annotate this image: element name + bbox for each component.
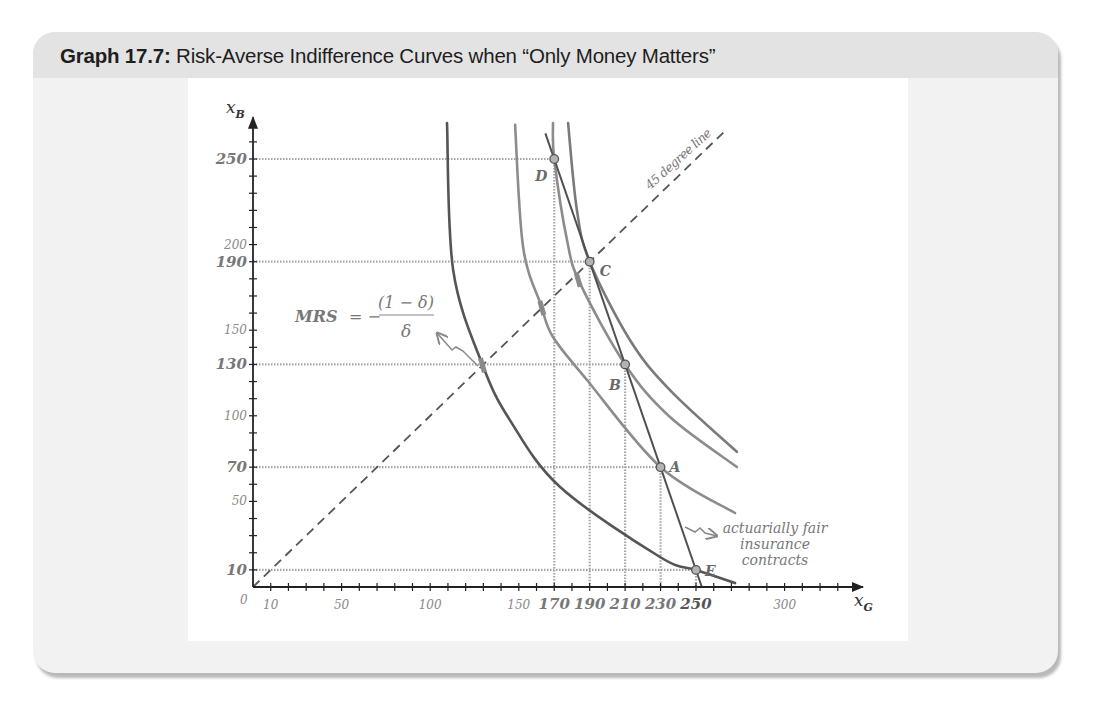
- certainty-45-degree-line: [253, 130, 726, 587]
- point-B: [621, 360, 630, 369]
- x-tick-label-190: 190: [574, 595, 606, 613]
- y-tick-label-190: 190: [216, 253, 248, 271]
- mrs-equals: = −: [349, 307, 381, 326]
- x-tick-label-50: 50: [334, 598, 350, 612]
- point-label-D: D: [534, 168, 548, 184]
- fair-label-line-2: insurance: [740, 536, 810, 552]
- point-label-E: E: [704, 563, 716, 579]
- y-tick-label-100: 100: [224, 409, 247, 423]
- point-A: [656, 463, 665, 472]
- point-label-B: B: [608, 377, 621, 393]
- x-tick-label-170: 170: [539, 595, 571, 613]
- diagonal-line-label: 45 degree line: [641, 125, 714, 193]
- y-tick-label-50: 50: [232, 494, 248, 508]
- y-axis-label: xB: [226, 97, 245, 121]
- mrs-numerator: (1 − δ): [378, 293, 434, 312]
- point-E: [692, 566, 701, 575]
- point-label-C: C: [600, 263, 611, 279]
- x-tick-label-150: 150: [507, 598, 530, 612]
- certainty-line-layer: [253, 130, 726, 587]
- indifference-curve-3: [553, 123, 737, 467]
- x-tick-label-10: 10: [263, 598, 279, 612]
- x-tick-label-100: 100: [419, 598, 442, 612]
- x-tick-label-230: 230: [644, 595, 677, 613]
- y-tick-label-130: 130: [216, 355, 248, 373]
- mrs-denominator: δ: [401, 321, 411, 341]
- y-tick-label-150: 150: [224, 323, 247, 337]
- x-tick-label-250: 250: [679, 595, 712, 613]
- x-tick-label-300: 300: [773, 598, 796, 612]
- slope-marks-layer: [480, 273, 580, 373]
- mrs-annotation: MRS = − (1 − δ) δ: [294, 293, 478, 366]
- mrs-label: MRS: [294, 307, 338, 326]
- point-C: [585, 257, 594, 266]
- fair-label-line-3: contracts: [742, 552, 809, 568]
- slope-mark-3: [576, 273, 580, 287]
- indifference-curves-layer: [447, 123, 737, 583]
- y-tick-label-70: 70: [226, 458, 247, 476]
- slope-mark-1: [480, 358, 484, 372]
- fair-insurance-arrow-icon: [685, 527, 717, 536]
- y-tick-label-10: 10: [226, 561, 247, 579]
- y-tick-label-200: 200: [223, 238, 247, 252]
- indifference-curve-1: [447, 123, 735, 583]
- slope-mark-2: [540, 301, 544, 315]
- fair-label-line-1: actuarially fair: [723, 520, 829, 536]
- y-tick-label-250: 250: [215, 150, 248, 168]
- indifference-curve-chart: 1050100150170190210230250300105070100130…: [0, 0, 1093, 720]
- tick-labels: 1050100150170190210230250300105070100130…: [215, 150, 797, 613]
- origin-label: 0: [240, 593, 248, 607]
- point-label-A: A: [668, 459, 681, 475]
- fair-insurance-annotation: actuarially fair insurance contracts: [685, 520, 829, 568]
- point-D: [550, 155, 559, 164]
- x-tick-label-210: 210: [608, 595, 641, 613]
- x-axis-label: xG: [854, 590, 873, 614]
